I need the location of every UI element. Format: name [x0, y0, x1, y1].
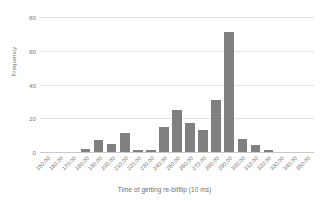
- bar: [238, 139, 247, 153]
- bar: [133, 150, 142, 152]
- bar: [81, 149, 90, 152]
- histogram-chart: Frequency 020406080 150.00160.00170.0018…: [0, 0, 329, 201]
- bar-slot: [157, 17, 170, 152]
- bar-slot: [249, 17, 262, 152]
- y-axis-tick-label: 20: [29, 115, 36, 122]
- bar: [94, 140, 103, 152]
- x-tick-slot: 350.00: [301, 153, 314, 185]
- bar: [224, 32, 233, 152]
- x-axis-tick-label: 150.00: [34, 155, 51, 172]
- bar-slot: [236, 17, 249, 152]
- bar-slot: [288, 17, 301, 152]
- bar-slot: [105, 17, 118, 152]
- bar-series: [40, 17, 314, 152]
- bar-slot: [131, 17, 144, 152]
- x-axis-title: Time of getting re-bitflip (10 ms): [0, 186, 329, 193]
- bar-slot: [79, 17, 92, 152]
- bar: [159, 127, 168, 152]
- y-axis-tick-label: 40: [29, 81, 36, 88]
- bar-slot: [223, 17, 236, 152]
- bar-slot: [170, 17, 183, 152]
- bar-slot: [118, 17, 131, 152]
- bar-slot: [275, 17, 288, 152]
- bar: [120, 133, 129, 152]
- bar: [146, 150, 155, 152]
- y-axis-tick-label: 60: [29, 47, 36, 54]
- bar: [107, 144, 116, 152]
- y-axis-tick-label: 0: [33, 149, 36, 156]
- y-axis-tick-label: 80: [29, 14, 36, 21]
- bar-slot: [144, 17, 157, 152]
- bar-slot: [197, 17, 210, 152]
- bar-slot: [40, 17, 53, 152]
- bar-slot: [262, 17, 275, 152]
- bar: [172, 110, 181, 152]
- bar-slot: [53, 17, 66, 152]
- bar: [211, 100, 220, 152]
- bar-slot: [301, 17, 314, 152]
- y-axis-title: Frequency: [10, 27, 17, 97]
- x-axis-ticks: 150.00160.00170.00180.00190.00200.00210.…: [40, 153, 314, 185]
- bar-slot: [210, 17, 223, 152]
- bar: [198, 130, 207, 152]
- bar: [264, 150, 273, 152]
- bar-slot: [184, 17, 197, 152]
- bar-slot: [66, 17, 79, 152]
- bar: [251, 145, 260, 152]
- bar-slot: [92, 17, 105, 152]
- bar: [185, 123, 194, 152]
- plot-area: 020406080: [40, 17, 314, 152]
